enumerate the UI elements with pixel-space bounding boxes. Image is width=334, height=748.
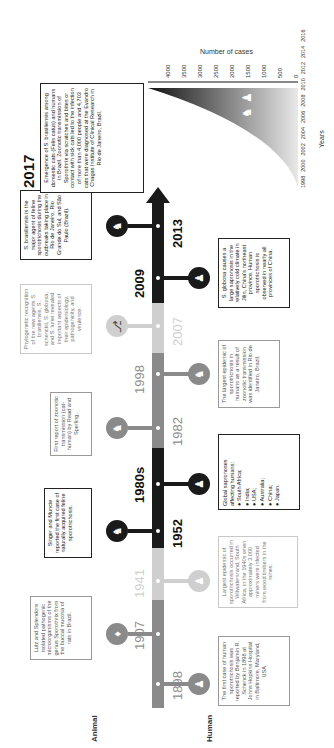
cat-icon: ♞ [106, 215, 128, 237]
cat-human-icon: ♞ [188, 363, 210, 385]
year-2013: 2013 [170, 219, 185, 248]
event-box-1898: The first case of human sporotrichosis w… [218, 636, 290, 706]
y-axis-label: Number of cases [200, 48, 253, 55]
year-1982: 1982 [170, 417, 185, 446]
phylogeny-icon: ⎇ [106, 315, 128, 337]
cat-human-icon: ♞ [106, 417, 128, 439]
timeline-segment-1898 [152, 650, 164, 708]
timeline-dot [156, 372, 160, 376]
timeline-dot [156, 579, 160, 583]
timeline-dot [156, 276, 160, 280]
event-box-2017: Emergence of S. brasiliensis among domes… [40, 83, 144, 193]
country-list: ● South Africa; ● India; ● USA; ● Austra… [236, 438, 281, 506]
rat-icon: ♦ [106, 623, 128, 645]
miners-icon: ♟ [188, 570, 210, 592]
human-label: Human [205, 715, 214, 742]
timeline-segment-1941 [152, 548, 164, 600]
timeline-dot [156, 632, 160, 636]
timeline-segment-1952 [152, 448, 164, 548]
animal-label: Animal [90, 715, 99, 742]
timeline-segment-2007 [152, 303, 164, 353]
chart-cat-icon: ♞ [240, 107, 254, 118]
event-box-1952: Singer and Muncie reported the first cas… [44, 488, 92, 558]
timeline-dot [156, 482, 160, 486]
event-box-1941: Largest epidemic of sporotrichosis occur… [218, 536, 298, 608]
x-axis-label: Years [318, 130, 325, 148]
timeline-dot [156, 224, 160, 228]
year-2009: 2009 [132, 269, 147, 298]
year-1952: 1952 [170, 519, 185, 548]
event-box-1982: First report of zoonotic transmission (c… [50, 392, 92, 456]
event-box-1907: Lutz and Splendore isolated pathogenic m… [30, 596, 92, 660]
timeline-infographic: Animal Human 1898 1907 1941 1952 1980s 1… [0, 0, 334, 748]
timeline-dot [156, 426, 160, 430]
timeline-segment-2009 [152, 203, 164, 303]
timeline-dot [156, 324, 160, 328]
people-icon: ♟ [188, 267, 210, 289]
timeline-segment-1907 [152, 600, 164, 650]
event-box-2009: S. globosa causes a large sapronosis in … [218, 238, 290, 308]
y-tick-labels: 4000 3500 3000 2500 2000 1500 1000 500 0 [160, 65, 304, 78]
year-1998: 1998 [132, 365, 147, 394]
timeline-arrow-icon [146, 187, 170, 203]
cases-chart [148, 88, 298, 188]
cat-icon: ♞ [106, 520, 128, 542]
timeline-segment-1982 [152, 353, 164, 448]
human-icon: ♟ [188, 673, 210, 695]
people-icon: ♟ [188, 473, 210, 495]
event-box-2007: Phylogenetic recognition of the new agen… [20, 284, 92, 354]
year-2007: 2007 [170, 317, 185, 346]
y-axis [148, 81, 298, 83]
year-1941: 1941 [132, 569, 147, 598]
chart-human-icon: ♟ [240, 92, 254, 103]
timeline-dot [156, 682, 160, 686]
year-1980s: 1980s [132, 467, 147, 503]
sapronoses-heading: Global sapronoses affecting humans: [222, 438, 235, 506]
x-tick-labels: 1998200020022004200620082010201220142016 [300, 30, 306, 189]
year-2017: 2017 [20, 155, 37, 188]
event-box-1980s: Global sapronoses affecting humans: ● So… [218, 434, 300, 510]
event-box-1998: The largest epidemic of sporotrichosis i… [218, 340, 280, 408]
timeline-dot [156, 529, 160, 533]
event-box-2013: S. brasiliensis is the major agent of fe… [20, 190, 92, 260]
